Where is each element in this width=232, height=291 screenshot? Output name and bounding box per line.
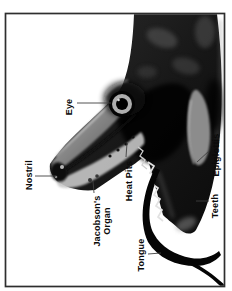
figure: Eye Nostril Jacobson's Organ Heat Pits E… <box>0 0 232 291</box>
snake-illustration <box>0 0 232 291</box>
label-nostril: Nostril <box>24 160 34 190</box>
label-tongue: Tongue <box>136 238 146 271</box>
label-jacobsons-organ: Jacobson's Organ <box>92 193 112 249</box>
label-epiglottis: Epiglottis <box>211 134 221 177</box>
label-eye: Eye <box>64 99 74 116</box>
label-heat-pits: Heat Pits <box>124 161 134 201</box>
label-teeth: Teeth <box>210 194 220 218</box>
